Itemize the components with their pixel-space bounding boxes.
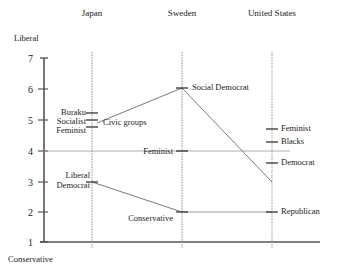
label-sweden-social-democrat: Social Democrat xyxy=(192,83,249,93)
label-japan-liberal-democrat-line2: Democrat xyxy=(56,181,90,191)
label-sweden-feminist: Feminist xyxy=(143,147,173,157)
connector-social-democrat-to-democrat xyxy=(182,88,272,182)
label-us-democrat: Democrat xyxy=(281,158,315,168)
label-civic-groups: Civic groups xyxy=(103,118,147,128)
label-sweden-conservative: Conservative xyxy=(128,214,173,224)
chart-canvas: Japan Sweden United States Liberal Conse… xyxy=(0,0,337,278)
label-japan-feminist: Feminist xyxy=(56,126,86,136)
label-us-republican: Republican xyxy=(281,207,320,217)
label-us-blacks: Blacks xyxy=(281,137,304,147)
connector-liberal-democrat-to-conservative xyxy=(92,182,182,212)
label-us-feminist: Feminist xyxy=(281,124,311,134)
